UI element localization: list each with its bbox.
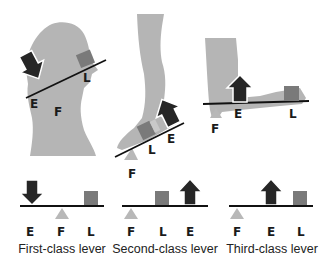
load-label: L bbox=[148, 143, 156, 157]
effort-label: E bbox=[30, 97, 38, 111]
third-class-lever: F E L Third-class lever bbox=[226, 179, 318, 256]
lever-label-3: L bbox=[87, 225, 95, 239]
lever-diagram: E F L E L F E L F bbox=[0, 0, 328, 270]
head-silhouette bbox=[26, 22, 98, 156]
lever-caption: Third-class lever bbox=[226, 242, 318, 256]
lever-label-3: L bbox=[297, 225, 305, 239]
load-label: L bbox=[83, 71, 91, 85]
foot-calf-panel: E L F bbox=[115, 14, 186, 181]
lever-label-2: E bbox=[267, 225, 275, 239]
effort-arrow-icon bbox=[20, 180, 44, 205]
lever-caption: First-class lever bbox=[18, 242, 106, 256]
load-block bbox=[84, 191, 98, 205]
first-class-lever: E F L First-class lever bbox=[18, 180, 106, 256]
load-label: L bbox=[289, 107, 297, 121]
lever-label-3: E bbox=[186, 225, 194, 239]
arm-elbow-panel: E L F bbox=[203, 38, 309, 136]
fulcrum-label: F bbox=[54, 105, 62, 119]
fulcrum-triangle bbox=[230, 208, 244, 219]
head-neck-panel: E F L bbox=[14, 22, 106, 156]
effort-label: E bbox=[167, 132, 175, 146]
load-block bbox=[155, 191, 169, 205]
lever-caption: Second-class lever bbox=[112, 242, 218, 256]
lever-label-2: F bbox=[57, 225, 65, 239]
lever-label-1: E bbox=[26, 225, 34, 239]
fulcrum-triangle bbox=[55, 208, 69, 219]
fulcrum-label: F bbox=[211, 122, 219, 136]
fulcrum-label: F bbox=[128, 167, 136, 181]
arm-silhouette bbox=[205, 38, 306, 118]
effort-label: E bbox=[234, 107, 242, 121]
second-class-lever: F L E Second-class lever bbox=[112, 179, 218, 256]
load-block bbox=[284, 86, 299, 101]
effort-arrow-icon bbox=[259, 179, 283, 205]
lever-label-1: F bbox=[233, 225, 241, 239]
load-block bbox=[293, 191, 307, 205]
effort-arrow-icon bbox=[178, 179, 202, 205]
lever-label-1: F bbox=[127, 225, 135, 239]
lever-label-2: L bbox=[159, 225, 167, 239]
fulcrum-triangle bbox=[124, 208, 138, 219]
